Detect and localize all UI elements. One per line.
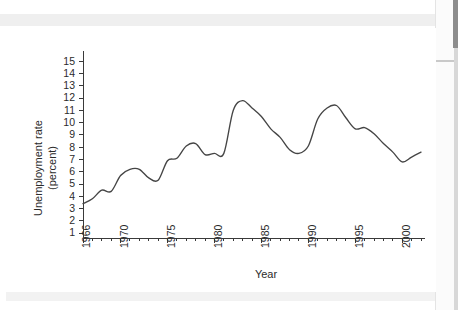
- page-edge-shadow: [454, 48, 458, 310]
- x-tick-label: 1985: [259, 224, 271, 248]
- x-tick-label: 1995: [353, 224, 365, 248]
- y-tick-label: 14: [63, 67, 75, 79]
- line-chart: Unemployment rate (percent) 123456789101…: [20, 28, 436, 292]
- x-tick-label: 1980: [212, 224, 224, 248]
- y-tick-label: 13: [63, 79, 75, 91]
- chart-svg: Unemployment rate (percent) 123456789101…: [20, 28, 436, 292]
- page-edge-shadow-top: [453, 0, 458, 48]
- unemployment-rate-line: [83, 101, 421, 204]
- figure-card: Unemployment rate (percent) 123456789101…: [20, 28, 436, 292]
- y-axis-ticks: 123456789101112131415: [63, 55, 83, 239]
- x-tick-label: 1970: [118, 224, 130, 248]
- y-tick-label: 11: [64, 104, 75, 116]
- y-tick-label: 9: [69, 128, 75, 140]
- y-axis-label-group: Unemployment rate (percent): [32, 120, 58, 216]
- y-tick-label: 7: [69, 153, 75, 165]
- page-right-margin: [435, 0, 454, 310]
- scanned-page: Unemployment rate (percent) 123456789101…: [0, 0, 458, 310]
- y-tick-label: 12: [63, 91, 75, 103]
- y-tick-label: 10: [63, 116, 75, 128]
- y-tick-label: 5: [69, 177, 75, 189]
- y-axis-label-line2: (percent): [46, 146, 58, 190]
- y-tick-label: 3: [69, 202, 75, 214]
- page-top-band: [0, 14, 458, 26]
- page-right-notch: [436, 60, 454, 62]
- y-tick-label: 4: [69, 190, 75, 202]
- y-tick-label: 1: [69, 226, 75, 238]
- x-tick-label: 1990: [306, 224, 318, 248]
- x-axis-ticks: 19661970197519801985199019952000: [80, 224, 421, 248]
- page-bottom-band: [6, 292, 452, 301]
- x-tick-label: 1966: [80, 224, 92, 248]
- x-axis-label: Year: [255, 268, 278, 280]
- x-tick-label: 1975: [165, 224, 177, 248]
- x-tick-label: 2000: [400, 224, 412, 248]
- y-tick-label: 2: [69, 214, 75, 226]
- y-tick-label: 15: [63, 55, 75, 67]
- y-tick-label: 8: [69, 141, 75, 153]
- y-axis-label-line1: Unemployment rate: [32, 120, 44, 216]
- y-tick-label: 6: [69, 165, 75, 177]
